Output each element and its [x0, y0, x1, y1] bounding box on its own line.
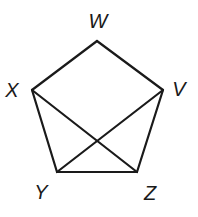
edges	[32, 41, 163, 172]
diagonal-x-z	[32, 90, 137, 172]
edge-y-x	[32, 90, 57, 172]
label-z: Z	[143, 182, 157, 204]
label-v: V	[172, 78, 187, 100]
edge-w-v	[97, 41, 163, 90]
label-y: Y	[34, 181, 49, 203]
diagonal-v-y	[57, 90, 163, 172]
label-x: X	[4, 79, 19, 101]
edge-x-w	[32, 41, 97, 90]
pentagon-diagram: W V Z Y X	[0, 0, 198, 217]
label-w: W	[89, 10, 110, 32]
edge-v-z	[137, 90, 163, 172]
vertex-labels: W V Z Y X	[4, 10, 187, 204]
